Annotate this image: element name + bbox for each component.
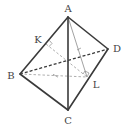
right-angle-mark-k: [49, 41, 52, 47]
edge-bc: [20, 74, 68, 110]
segment-kl: [46, 44, 87, 77]
tetrahedron-diagram: A B C D K L: [0, 0, 128, 130]
vertex-label-c: C: [64, 115, 72, 126]
vertex-label-a: A: [63, 3, 72, 14]
point-label-l: L: [93, 79, 100, 90]
vertex-label-d: D: [113, 43, 121, 54]
segment-al: [68, 17, 87, 77]
point-label-k: K: [34, 34, 42, 45]
vertex-label-b: B: [7, 70, 14, 81]
edge-ad: [68, 17, 108, 49]
edge-ab: [20, 17, 68, 74]
